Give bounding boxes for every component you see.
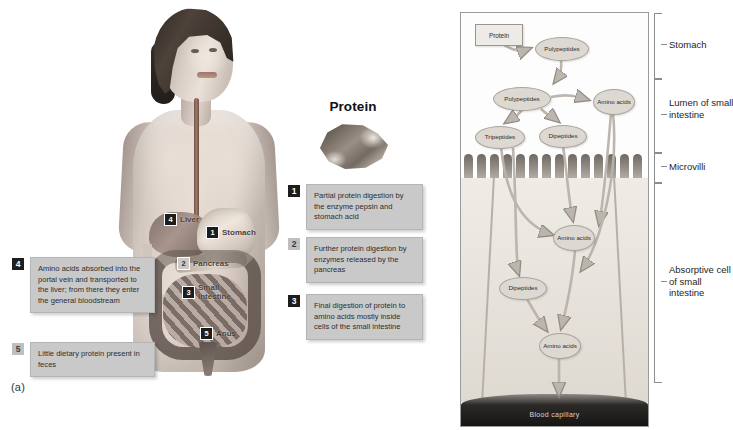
organ-badge-5: 5 (200, 327, 213, 340)
organ-badge-2: 2 (177, 257, 190, 270)
callout-badge-3: 3 (288, 295, 300, 307)
organ-label-text-anus: Anus (216, 329, 236, 338)
blood-capillary-zone: Blood capillary (461, 394, 648, 426)
bracket-lumen (654, 79, 662, 153)
bracket-dash-absorptive-cell (661, 281, 667, 282)
callout-badge-1: 1 (288, 185, 300, 197)
organ-label-text-small-intestine: Small intestine (198, 284, 232, 301)
bracket-dash-lumen (661, 114, 667, 115)
bracket-label-absorptive-cell: Absorptive cell of small intestine (669, 264, 731, 299)
bracket-dash-stomach (661, 44, 667, 45)
node-amino-acids-lumen: Amino acids (593, 89, 635, 115)
bracket-label-lumen: Lumen of small intestine (669, 97, 733, 120)
bracket-absorptive-cell (654, 183, 662, 383)
bracket-label-stomach: Stomach (669, 39, 707, 51)
callout-text-1: Partial protein digestion by the enzyme … (306, 184, 423, 230)
callout-step-5: 5 Little dietary protein present in fece… (12, 342, 155, 377)
organ-badge-3: 3 (182, 286, 195, 299)
mouth-shape (197, 72, 217, 78)
node-amino-acids-cell-lower: Amino acids (539, 333, 581, 359)
node-amino-acids-cell-upper: Amino acids (553, 225, 595, 251)
node-polypeptides-lumen: Polypeptides (493, 87, 551, 111)
callout-step-3: 3 Final digestion of protein to amino ac… (288, 294, 423, 340)
callout-text-2: Further protein digestion by enzymes rel… (306, 237, 423, 283)
eye-left (191, 49, 199, 53)
callout-badge-4: 4 (12, 258, 24, 270)
callout-step-4: 4 Amino acids absorbed into the portal v… (12, 257, 155, 313)
organ-label-stomach: 1 Stomach (206, 226, 256, 239)
node-polypeptides-stomach: Polypeptides (535, 37, 589, 61)
esophagus-shape (194, 98, 199, 224)
bracket-label-microvilli: Microvilli (669, 161, 705, 173)
bracket-dash-microvilli (661, 166, 667, 167)
protein-food-photo (317, 120, 391, 172)
organ-label-liver: 4 Liver (164, 213, 199, 226)
organ-label-text-stomach: Stomach (222, 228, 256, 237)
panel-b-cellular-absorption: Blood capillary (440, 0, 733, 430)
human-figure-illustration (105, 2, 295, 380)
callout-badge-2: 2 (288, 238, 300, 250)
organ-label-pancreas: 2 Pancreas (177, 257, 229, 270)
node-dipeptides-cell: Dipeptides (499, 277, 547, 300)
node-dipeptides-lumen: Dipeptides (539, 125, 587, 148)
organ-badge-4: 4 (164, 213, 177, 226)
organ-label-small-intestine: 3 Small intestine (182, 284, 232, 301)
organ-label-anus: 5 Anus (200, 327, 236, 340)
node-protein: Protein (475, 24, 523, 46)
callout-step-1: 1 Partial protein digestion by the enzym… (288, 184, 423, 230)
organ-badge-1: 1 (206, 226, 219, 239)
panel-a-letter: (a) (11, 381, 25, 393)
panel-b-frame: Blood capillary (460, 12, 649, 427)
callout-step-2: 2 Further protein digestion by enzymes r… (288, 237, 423, 283)
eye-right (209, 48, 217, 52)
blood-capillary-label: Blood capillary (461, 411, 648, 418)
organ-label-text-pancreas: Pancreas (193, 259, 229, 268)
node-tripeptides: Tripeptides (475, 126, 525, 149)
callout-text-4: Amino acids absorbed into the portal vei… (30, 257, 155, 313)
callout-text-5: Little dietary protein present in feces (30, 342, 155, 377)
bracket-stomach (654, 13, 662, 79)
organ-label-text-liver: Liver (180, 215, 199, 224)
callout-badge-5: 5 (12, 343, 24, 355)
bracket-microvilli (654, 153, 662, 183)
protein-heading: Protein (299, 99, 407, 114)
callout-text-3: Final digestion of protein to amino acid… (306, 294, 423, 340)
panel-a-whole-body-digestion: 4 Liver 1 Stomach 2 Pancreas 3 Small int… (0, 0, 440, 430)
